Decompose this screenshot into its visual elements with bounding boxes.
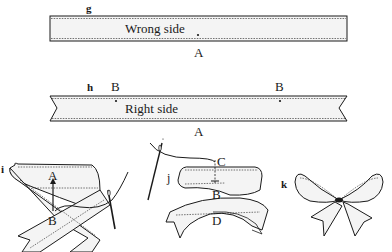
point-d-label: D — [212, 214, 221, 227]
step-label-j: j — [167, 172, 170, 184]
ribbon-text-wrong-side: Wrong side — [125, 22, 185, 35]
step-label-k: k — [281, 179, 287, 190]
point-a-label: A — [48, 169, 57, 182]
panel-i-illustration — [10, 163, 128, 252]
point-a-label: A — [194, 125, 203, 138]
point-b-right-dot — [279, 100, 281, 102]
step-label-h: h — [87, 82, 93, 93]
step-label-i: i — [1, 164, 4, 175]
point-b-left-dot — [115, 100, 117, 102]
point-b-label: B — [48, 214, 57, 227]
panel-j-illustration — [148, 143, 268, 238]
point-c-label: C — [217, 155, 226, 168]
point-a-dot — [197, 34, 199, 36]
point-b-label: B — [212, 188, 221, 201]
ribbon-text-right-side: Right side — [125, 102, 178, 115]
panel-g-ribbon — [50, 16, 347, 41]
panel-k-bow — [295, 174, 383, 236]
point-b-right-label: B — [275, 80, 284, 93]
point-a-label: A — [194, 46, 203, 59]
step-label-g: g — [86, 3, 92, 14]
point-b-left-label: B — [111, 80, 120, 93]
